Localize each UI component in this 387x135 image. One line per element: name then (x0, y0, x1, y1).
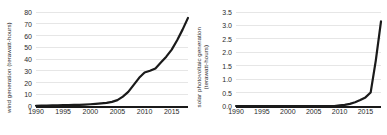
x-tick-wind-5: 2015 (164, 108, 180, 116)
plot-area-solar (236, 12, 381, 106)
y-axis-label-solar: solar photovoltaic generation (terawatt-… (194, 0, 210, 135)
y-axis-label-solar-line2: (terawatt-hours) (202, 27, 209, 108)
plot-wrapper-wind: 01020304050607080 1990199520002005201020… (14, 0, 194, 135)
x-tick-solar-0: 1990 (228, 108, 244, 116)
y-tick-wind-8: 80 (24, 9, 32, 16)
y-tick-wind-2: 20 (24, 79, 32, 86)
x-tick-labels-solar: 199019952000200520102015 (236, 108, 381, 120)
y-tick-wind-3: 30 (24, 67, 32, 74)
x-tick-solar-5: 2015 (358, 108, 374, 116)
solar-series-path (236, 21, 381, 106)
x-tick-solar-4: 2010 (332, 108, 348, 116)
wind-series-line (36, 12, 188, 106)
y-tick-wind-4: 40 (24, 56, 32, 63)
x-tick-wind-1: 1995 (55, 108, 71, 116)
y-tick-labels-wind: 01020304050607080 (14, 12, 34, 106)
x-tick-solar-2: 2000 (280, 108, 296, 116)
x-tick-solar-1: 1995 (254, 108, 270, 116)
y-tick-solar-4: 2.0 (222, 49, 232, 56)
y-tick-solar-5: 2.5 (222, 35, 232, 42)
y-tick-wind-6: 60 (24, 32, 32, 39)
x-tick-wind-0: 1990 (28, 108, 44, 116)
y-tick-solar-2: 1.0 (222, 76, 232, 83)
x-tick-wind-2: 2000 (82, 108, 98, 116)
y-tick-wind-1: 10 (24, 91, 32, 98)
y-tick-labels-solar: 0.00.51.01.52.02.53.03.5 (212, 12, 234, 106)
plot-area-wind (36, 12, 188, 106)
wind-series-path (36, 18, 188, 106)
y-tick-wind-5: 50 (24, 44, 32, 51)
y-axis-label-solar-line1: solar photovoltaic generation (195, 27, 202, 108)
x-tick-labels-wind: 199019952000200520102015 (36, 108, 188, 120)
chart-panel-wind: wind generation (terawatt-hours) 0102030… (0, 0, 194, 135)
y-axis-label-wind-line1: wind generation (terawatt-hours) (4, 22, 11, 113)
x-tick-wind-3: 2005 (110, 108, 126, 116)
y-tick-solar-7: 3.5 (222, 9, 232, 16)
y-tick-solar-6: 3.0 (222, 22, 232, 29)
dual-line-chart-figure: wind generation (terawatt-hours) 0102030… (0, 0, 387, 135)
plot-wrapper-solar: 0.00.51.01.52.02.53.03.5 199019952000200… (212, 0, 387, 135)
x-tick-solar-3: 2005 (306, 108, 322, 116)
y-tick-wind-7: 70 (24, 20, 32, 27)
y-tick-solar-3: 1.5 (222, 62, 232, 69)
solar-series-line (236, 12, 381, 106)
chart-panel-solar: solar photovoltaic generation (terawatt-… (194, 0, 387, 135)
y-tick-solar-1: 0.5 (222, 89, 232, 96)
x-tick-wind-4: 2010 (137, 108, 153, 116)
